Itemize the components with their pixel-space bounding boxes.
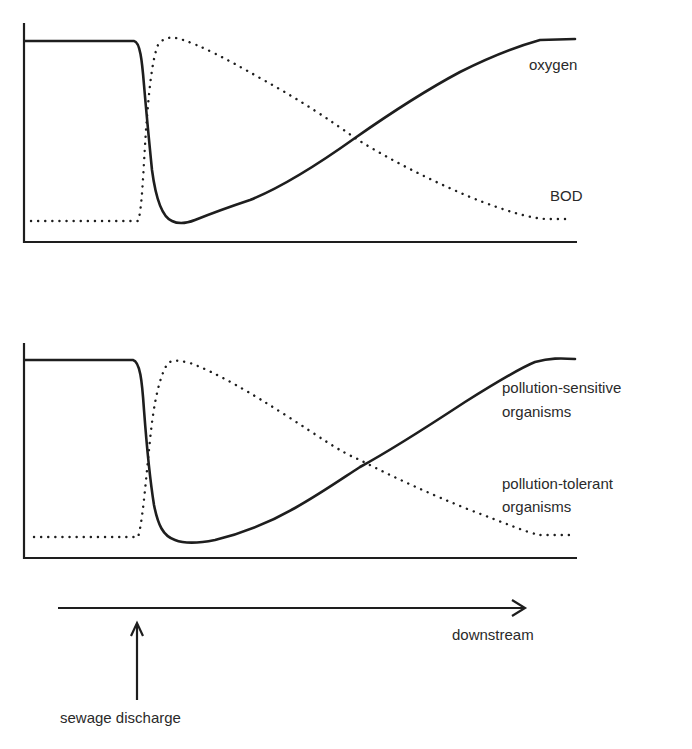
sensitive-label-line2: organisms xyxy=(502,402,571,422)
oxygen-curve xyxy=(25,39,575,223)
bod-label: BOD xyxy=(550,186,583,206)
downstream-label: downstream xyxy=(452,625,534,645)
downstream-arrow xyxy=(58,600,525,616)
sewage-discharge-label: sewage discharge xyxy=(60,708,181,728)
sensitive-label-line1: pollution-sensitive xyxy=(502,378,621,398)
tolerant-label-line1: pollution-tolerant xyxy=(502,474,613,494)
sensitive-organisms-curve xyxy=(25,358,575,542)
bod-curve xyxy=(31,38,572,221)
tolerant-label-line2: organisms xyxy=(502,497,571,517)
top-chart xyxy=(23,23,577,243)
sewage-discharge-arrow xyxy=(131,623,143,700)
bottom-chart xyxy=(23,343,577,559)
oxygen-label: oxygen xyxy=(529,55,577,75)
diagram-canvas xyxy=(0,0,692,749)
